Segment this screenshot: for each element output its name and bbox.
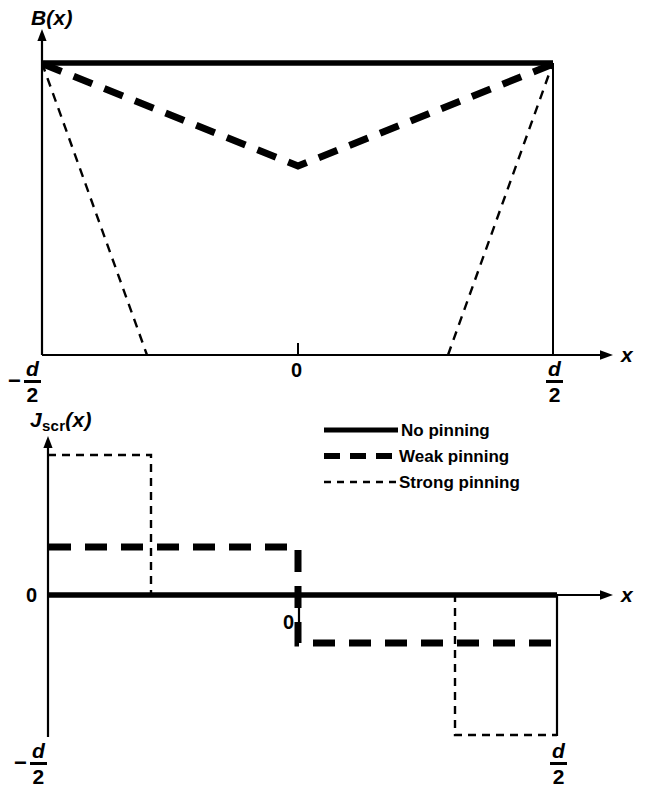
legend-label-weak-pinning: Weak pinning — [399, 447, 509, 467]
top-panel-xtick-left-denominator: 2 — [25, 383, 41, 406]
bottom-panel-y-axis-label-subscript: scr — [42, 417, 65, 434]
top-panel-xtick-right-numerator: d — [546, 358, 563, 380]
bottom-panel-xtick-right-fraction: d 2 — [550, 740, 567, 788]
top-panel — [37, 29, 613, 360]
bottom-panel-y-axis-label-argument: (x) — [65, 408, 91, 431]
legend-label-no-pinning: No pinning — [401, 421, 490, 441]
top-panel-xtick-left-minus: − — [8, 368, 21, 394]
top-panel-y-axis-arrowhead — [37, 29, 46, 41]
bottom-panel-x-axis-arrowhead — [600, 590, 613, 600]
bottom-panel-xtick-right: d 2 — [547, 740, 567, 788]
bottom-panel-xtick-left-fraction: d 2 — [30, 740, 47, 788]
bottom-panel-y-axis-label: Jscr(x) — [30, 409, 92, 433]
legend-label-strong-pinning: Strong pinning — [399, 473, 520, 493]
top-panel-weak-pinning-curve — [43, 64, 553, 166]
bottom-panel-x-axis-label: x — [621, 584, 633, 605]
bottom-panel-y-axis-label-main: J — [30, 408, 42, 431]
top-panel-xtick-right-denominator: 2 — [547, 383, 563, 406]
bottom-panel-y-axis-arrowhead — [43, 436, 52, 448]
bottom-panel-xtick-left-minus: − — [14, 750, 27, 776]
bottom-panel-y-zero-label: 0 — [26, 585, 37, 605]
legend-lines — [324, 430, 398, 482]
figure-container: B(x) x − d 2 0 d 2 Jscr(x) x 0 0 − d 2 — [0, 0, 650, 798]
top-panel-xtick-left: − d 2 — [8, 358, 41, 406]
bottom-panel-xtick-right-denominator: 2 — [551, 765, 567, 788]
bottom-panel-origin-zero-label: 0 — [283, 612, 294, 632]
bottom-panel-xtick-right-numerator: d — [550, 740, 567, 762]
top-panel-y-axis-label: B(x) — [31, 7, 73, 28]
bottom-panel-xtick-left-denominator: 2 — [31, 765, 47, 788]
bottom-panel-xtick-left: − d 2 — [14, 740, 47, 788]
top-panel-xtick-left-numerator: d — [24, 358, 41, 380]
top-panel-xtick-center: 0 — [291, 360, 302, 380]
bottom-panel-xtick-left-numerator: d — [30, 740, 47, 762]
top-panel-x-axis-label: x — [621, 344, 633, 365]
top-panel-strong-pinning-curve-right — [448, 63, 553, 355]
top-panel-x-axis-arrowhead — [600, 350, 613, 360]
top-panel-xtick-left-fraction: d 2 — [24, 358, 41, 406]
top-panel-xtick-right: d 2 — [543, 358, 563, 406]
top-panel-strong-pinning-curve — [42, 63, 147, 355]
top-panel-xtick-right-fraction: d 2 — [546, 358, 563, 406]
